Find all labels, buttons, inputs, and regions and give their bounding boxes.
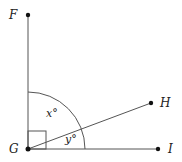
geometry-diagram: F G H I x° y°	[0, 0, 182, 162]
point-h	[149, 101, 153, 105]
angle-x-label: x°	[46, 107, 58, 120]
point-i	[156, 147, 160, 151]
label-h: H	[159, 96, 171, 110]
angle-y-label: y°	[64, 133, 77, 146]
label-g: G	[9, 142, 19, 156]
point-f	[26, 13, 30, 17]
label-f: F	[8, 8, 18, 22]
right-angle-marker	[28, 131, 46, 149]
label-i: I	[167, 142, 173, 156]
point-g	[26, 147, 31, 152]
